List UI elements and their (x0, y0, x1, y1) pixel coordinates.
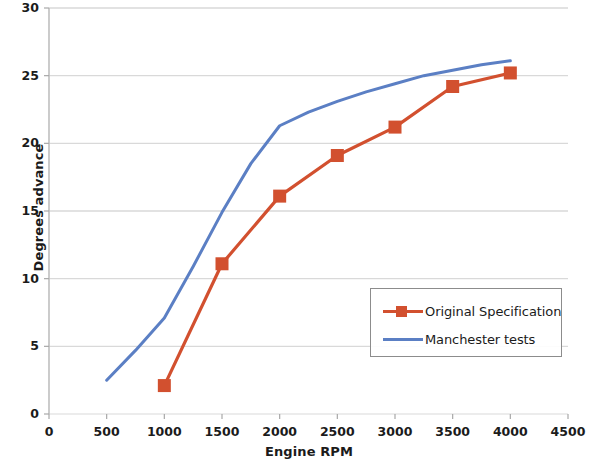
legend-swatch-original-specification (381, 302, 425, 320)
x-tick-label: 4500 (538, 424, 594, 439)
y-tick-label: 25 (5, 68, 39, 83)
x-tick-label: 2000 (250, 424, 310, 439)
y-tick-label: 30 (5, 0, 39, 15)
x-tick-label: 3500 (423, 424, 483, 439)
legend-label-original-specification: Original Specification (425, 304, 561, 319)
chart-container: 051015202530 050010001500200025003000350… (0, 0, 594, 468)
x-tick-label: 1500 (192, 424, 252, 439)
legend-item-manchester-tests: Manchester tests (371, 327, 561, 351)
y-tick-label: 5 (5, 338, 39, 353)
y-axis-title: Degrees advance (31, 108, 46, 308)
x-tick-label: 500 (77, 424, 137, 439)
x-tick-label: 2500 (307, 424, 367, 439)
legend-label-manchester-tests: Manchester tests (425, 332, 535, 347)
x-tick-label: 3000 (365, 424, 425, 439)
chart-legend: Original Specification Manchester tests (370, 288, 562, 357)
x-tick-label: 4000 (480, 424, 540, 439)
x-tick-label: 1000 (134, 424, 194, 439)
x-tick-label: 0 (19, 424, 79, 439)
legend-swatch-manchester-tests (381, 330, 425, 348)
legend-item-original-specification: Original Specification (371, 299, 561, 323)
x-axis-title: Engine RPM (49, 444, 569, 459)
x-tick-marks-group (49, 414, 568, 419)
y-tick-label: 0 (5, 406, 39, 421)
chart-plot-area (0, 0, 594, 468)
